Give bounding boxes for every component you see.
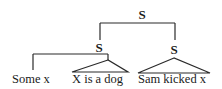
- left-s-node-label: S: [95, 40, 102, 55]
- leaf-some-x: Some x: [12, 72, 51, 86]
- root-node-label: S: [138, 7, 145, 22]
- leaf-x-is-a-dog: X is a dog: [72, 72, 124, 86]
- leaf-sam-kicked-x: Sam kicked x: [138, 72, 207, 86]
- left-s-bracket: [33, 54, 108, 70]
- right-s-node-label: S: [170, 42, 177, 57]
- syntax-tree-diagram: S S S Some x X is a dog Sam kicked x: [0, 0, 222, 89]
- root-bracket: [100, 23, 175, 40]
- right-triangle: [138, 58, 210, 73]
- left-triangle: [72, 60, 128, 72]
